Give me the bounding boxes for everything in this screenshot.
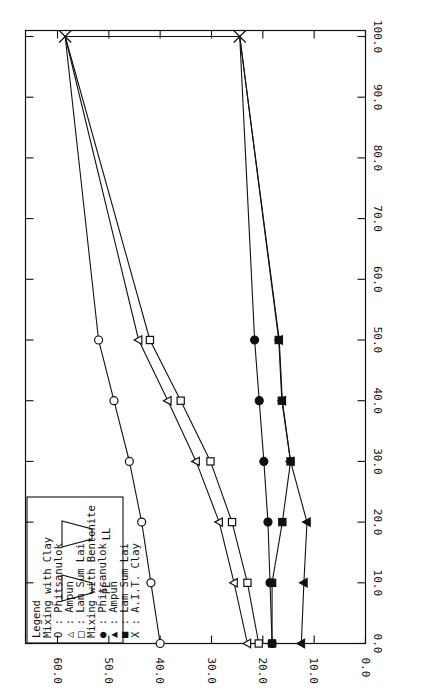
data-point xyxy=(177,397,184,404)
data-point xyxy=(147,579,155,587)
data-point xyxy=(268,579,275,586)
x-tick-label: 30.0 xyxy=(371,448,384,475)
data-point xyxy=(260,457,268,465)
x-tick-label: 10.0 xyxy=(371,570,384,597)
svg-text:LL: LL xyxy=(100,528,112,541)
data-point xyxy=(255,397,263,405)
data-point xyxy=(251,336,259,344)
x-tick-label: 80.0 xyxy=(371,145,384,172)
svg-text:60.0: 60.0 xyxy=(371,266,384,293)
y-tick-label: 0.0 xyxy=(359,658,372,678)
data-point xyxy=(125,457,133,465)
svg-text:X : A.I.T. Clay: X : A.I.T. Clay xyxy=(129,543,141,638)
svg-text:40.0: 40.0 xyxy=(371,387,384,414)
svg-text:10.0: 10.0 xyxy=(371,570,384,597)
y-tick-label: 50.0 xyxy=(102,658,115,685)
svg-text:60.0: 60.0 xyxy=(51,658,64,685)
svg-text:90.0: 90.0 xyxy=(371,84,384,111)
x-tick-label: 70.0 xyxy=(371,205,384,232)
y-tick-label: 60.0 xyxy=(51,658,64,685)
y-tick-label: 40.0 xyxy=(153,658,166,685)
svg-text:10.0: 10.0 xyxy=(307,658,320,685)
data-point xyxy=(138,518,146,526)
data-point xyxy=(287,458,294,465)
svg-text:40.0: 40.0 xyxy=(153,658,166,685)
svg-text:0.0: 0.0 xyxy=(359,658,372,678)
svg-text:30.0: 30.0 xyxy=(371,448,384,475)
x-tick-label: 50.0 xyxy=(371,327,384,354)
svg-text:20.0: 20.0 xyxy=(371,509,384,536)
data-point xyxy=(275,336,282,343)
svg-text:70.0: 70.0 xyxy=(371,205,384,232)
data-point xyxy=(268,640,275,647)
data-point xyxy=(146,336,153,343)
x-tick-label: 40.0 xyxy=(371,387,384,414)
data-point xyxy=(207,458,214,465)
rotated-line-chart: 0.010.020.030.040.050.060.070.080.090.01… xyxy=(0,0,439,691)
y-tick-label: 10.0 xyxy=(307,658,320,685)
svg-text:30.0: 30.0 xyxy=(205,658,218,685)
svg-text:20.0: 20.0 xyxy=(256,658,269,685)
data-point xyxy=(255,640,262,647)
x-tick-label: 90.0 xyxy=(371,84,384,111)
data-point xyxy=(264,518,272,526)
x-tick-label: 100.0 xyxy=(371,20,384,53)
legend-item-ait-clay: X : A.I.T. Clay xyxy=(129,543,141,638)
svg-text:0.0: 0.0 xyxy=(371,634,384,654)
svg-text:50.0: 50.0 xyxy=(371,327,384,354)
svg-text:100.0: 100.0 xyxy=(371,20,384,53)
y-tick-label: 20.0 xyxy=(256,658,269,685)
data-point xyxy=(278,397,285,404)
x-tick-label: 60.0 xyxy=(371,266,384,293)
data-point xyxy=(110,397,118,405)
data-point xyxy=(244,579,251,586)
chart-root: 0.010.020.030.040.050.060.070.080.090.01… xyxy=(0,0,439,691)
data-point xyxy=(156,640,164,648)
data-point xyxy=(95,336,103,344)
y-tick-label: 30.0 xyxy=(205,658,218,685)
svg-text:80.0: 80.0 xyxy=(371,145,384,172)
x-tick-label: 20.0 xyxy=(371,509,384,536)
data-point xyxy=(228,519,235,526)
x-tick-label: 0.0 xyxy=(371,634,384,654)
data-point xyxy=(279,519,286,526)
svg-text:PL: PL xyxy=(100,582,112,595)
svg-text:50.0: 50.0 xyxy=(102,658,115,685)
